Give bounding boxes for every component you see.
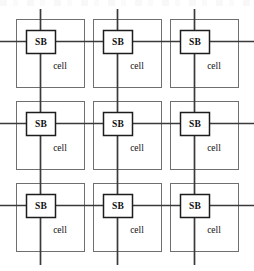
switch-box-label: SB xyxy=(112,37,125,47)
switch-box: SB xyxy=(181,113,210,136)
switch-box-label: SB xyxy=(112,119,125,129)
switch-box: SB xyxy=(27,31,56,54)
switch-box-label: SB xyxy=(189,119,202,129)
cell-label: cell xyxy=(130,225,144,235)
cell-label: cell xyxy=(207,143,221,153)
switch-box: SB xyxy=(181,195,210,218)
switch-box-label: SB xyxy=(35,119,48,129)
fpga-array-figure: cellcellcellcellcellcellcellcellcell SBS… xyxy=(0,0,254,271)
switch-box: SB xyxy=(104,113,133,136)
switch-box-label: SB xyxy=(112,201,125,211)
fpga-array-svg: cellcellcellcellcellcellcellcellcell SBS… xyxy=(0,0,254,271)
cell-label: cell xyxy=(207,225,221,235)
cell-label: cell xyxy=(130,143,144,153)
switch-box-label: SB xyxy=(189,37,202,47)
cell-label: cell xyxy=(207,61,221,71)
switch-box: SB xyxy=(181,31,210,54)
switch-box: SB xyxy=(27,195,56,218)
cell-label: cell xyxy=(53,143,67,153)
switch-box: SB xyxy=(104,195,133,218)
switch-box-label: SB xyxy=(35,37,48,47)
cell-label: cell xyxy=(53,61,67,71)
switch-box: SB xyxy=(27,113,56,136)
switch-box-label: SB xyxy=(189,201,202,211)
cell-label: cell xyxy=(130,61,144,71)
cell-label: cell xyxy=(53,225,67,235)
switch-box: SB xyxy=(104,31,133,54)
switch-box-label: SB xyxy=(35,201,48,211)
